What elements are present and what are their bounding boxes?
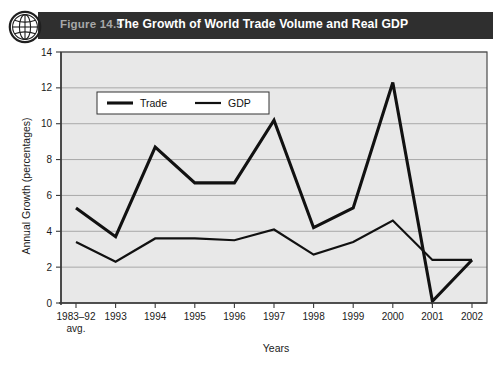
y-tick-label: 0 <box>46 298 52 309</box>
x-tick-label: 2001 <box>421 311 444 322</box>
line-chart: 02468101214 1983–92avg.19931994199519961… <box>0 0 504 371</box>
y-tick-label: 14 <box>41 47 53 58</box>
figure-container: Figure 14.5 The Growth of World Trade Vo… <box>0 0 504 371</box>
x-tick-label: 2002 <box>461 311 484 322</box>
y-tick-label: 6 <box>46 190 52 201</box>
x-tick-label: 2000 <box>382 311 405 322</box>
x-tick-label: 1983–92 <box>57 311 96 322</box>
x-tick-label: 1993 <box>104 311 127 322</box>
x-tick-label: 1997 <box>263 311 286 322</box>
x-tick-label: 1996 <box>223 311 246 322</box>
y-tick-label: 4 <box>46 226 52 237</box>
y-tick-label: 2 <box>46 262 52 273</box>
x-axis-label: Years <box>263 342 289 354</box>
x-tick-label: 1999 <box>342 311 365 322</box>
legend-label-trade: Trade <box>140 97 167 109</box>
y-tick-label: 12 <box>41 82 53 93</box>
y-tick-label: 10 <box>41 118 53 129</box>
x-axis-ticks: 1983–92avg.19931994199519961997199819992… <box>57 303 484 334</box>
plot-background <box>61 52 487 303</box>
y-tick-label: 8 <box>46 154 52 165</box>
y-axis-ticks: 02468101214 <box>41 47 61 309</box>
x-tick-label: 1994 <box>144 311 167 322</box>
legend-label-gdp: GDP <box>228 97 251 109</box>
x-tick-label: 1995 <box>184 311 207 322</box>
x-tick-label-sub: avg. <box>67 323 86 334</box>
x-tick-label: 1998 <box>302 311 325 322</box>
chart-legend[interactable]: TradeGDP <box>97 92 269 114</box>
y-axis-label: Annual Growth (percentages) <box>20 117 32 254</box>
